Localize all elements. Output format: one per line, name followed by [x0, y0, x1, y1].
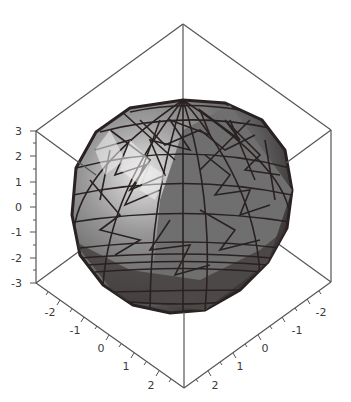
x-tick-label: -2: [45, 306, 56, 319]
y-tick-label: 0: [262, 342, 269, 355]
z-tick-label: -1: [11, 226, 22, 239]
z-tick-label: -3: [11, 277, 22, 290]
y-tick-label: -2: [316, 306, 327, 319]
z-tick-label: 1: [15, 176, 22, 189]
x-tick-label: 2: [148, 379, 155, 392]
sphere-surface: [72, 100, 292, 313]
y-tick-label: 1: [237, 360, 244, 373]
y-axis-labels: -2 -1 0 1 2: [212, 306, 327, 392]
z-tick-label: 0: [15, 201, 22, 214]
z-tick-label: -2: [11, 252, 22, 265]
z-tick-label: 3: [15, 125, 22, 138]
x-axis-labels: -2 -1 0 1 2: [45, 306, 155, 392]
x-tick-label: -1: [70, 324, 81, 337]
z-tick-label: 2: [15, 150, 22, 163]
x-tick-label: 1: [123, 360, 130, 373]
x-tick-label: 0: [98, 342, 105, 355]
y-tick-label: -1: [292, 324, 303, 337]
z-axis: [30, 131, 36, 283]
sphere-3d-plot: 3 2 1 0 -1 -2 -3 -2 -1 0 1 2: [0, 0, 351, 402]
z-axis-labels: 3 2 1 0 -1 -2 -3: [11, 125, 22, 290]
y-tick-label: 2: [212, 379, 219, 392]
